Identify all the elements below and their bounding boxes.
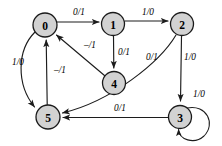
state-node-4[interactable]: 4 <box>103 72 126 95</box>
state-node-0-label: 0 <box>42 20 48 32</box>
edge-2-to-3 <box>181 36 182 101</box>
state-node-1[interactable]: 1 <box>102 13 125 36</box>
state-node-0[interactable]: 0 <box>33 13 57 37</box>
edge-label-3-self: 1/0 <box>193 89 205 99</box>
edge-label-2-5: 0/1 <box>146 52 158 62</box>
state-node-2-label: 2 <box>179 19 185 31</box>
edge-label-5-0: –/1 <box>53 65 66 75</box>
state-node-3[interactable]: 3 <box>169 106 192 129</box>
edge-label-1-4: 0/1 <box>118 47 130 57</box>
edge-label-2-3: 1/0 <box>184 52 196 62</box>
state-node-5[interactable]: 5 <box>36 105 60 129</box>
fsm-canvas: 0/1 1/0 0/1 –/1 1/0 –/1 0/1 1/0 0/1 1/0 … <box>0 0 222 146</box>
edge-0-to-5 <box>21 32 35 107</box>
state-node-4-label: 4 <box>111 78 117 90</box>
state-node-5-label: 5 <box>45 112 51 124</box>
edge-label-3-5: 0/1 <box>114 103 126 113</box>
state-node-3-label: 3 <box>177 112 183 124</box>
edge-label-0-5: 1/0 <box>12 57 24 67</box>
fsm-diagram: 0/1 1/0 0/1 –/1 1/0 –/1 0/1 1/0 0/1 1/0 … <box>0 0 222 146</box>
edge-label-4-0: –/1 <box>83 40 96 50</box>
state-node-1-label: 1 <box>110 19 116 31</box>
edge-label-0-1: 0/1 <box>73 7 85 17</box>
edge-label-1-2: 1/0 <box>142 7 154 17</box>
state-node-2[interactable]: 2 <box>171 13 194 36</box>
edge-5-to-0 <box>46 40 47 105</box>
